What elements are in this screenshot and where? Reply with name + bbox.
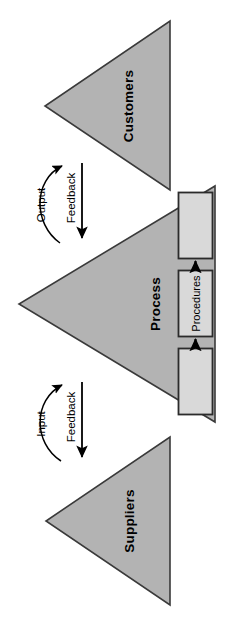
suppliers-label: Suppliers (122, 489, 137, 552)
suppliers-triangle-group[interactable]: Suppliers (46, 437, 170, 605)
feedback-suppliers-flow-group: Feedback (65, 382, 82, 457)
input-flow-group: Input (35, 385, 62, 461)
output-label: Output (35, 187, 47, 222)
process-label: Process (148, 277, 163, 331)
box-upper[interactable] (179, 193, 213, 259)
box-lower-group[interactable] (179, 349, 213, 415)
box-upper-group[interactable] (179, 193, 213, 259)
customers-label: Customers (121, 70, 136, 142)
box-lower[interactable] (179, 349, 213, 415)
diagram-canvas: Customers Process Suppliers Procedures (0, 0, 228, 626)
box-procedures-label: Procedures (190, 275, 202, 332)
feedback-customers-label: Feedback (65, 173, 77, 224)
customers-triangle-group[interactable]: Customers (45, 21, 170, 190)
input-label: Input (35, 410, 47, 436)
output-flow-group: Output (35, 166, 62, 243)
process-diagram: Customers Process Suppliers Procedures (0, 0, 228, 626)
feedback-suppliers-label: Feedback (65, 392, 77, 443)
box-procedures-group[interactable]: Procedures (179, 271, 213, 337)
feedback-customers-flow-group: Feedback (65, 163, 82, 238)
suppliers-triangle[interactable] (46, 437, 170, 605)
customers-triangle[interactable] (45, 21, 170, 190)
